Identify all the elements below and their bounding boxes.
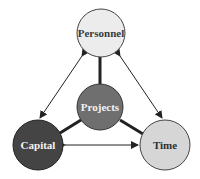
node-projects-label: Projects — [81, 101, 120, 113]
spoke-projects-capital — [60, 120, 81, 133]
triangle-diagram: Personnel Projects Capital Time — [0, 0, 200, 179]
node-time-label: Time — [153, 139, 177, 151]
node-personnel-label: Personnel — [78, 27, 124, 39]
arrow-personnel-time — [120, 56, 162, 118]
spoke-projects-time — [120, 120, 143, 134]
node-time: Time — [140, 120, 190, 170]
node-capital: Capital — [13, 120, 63, 170]
node-projects: Projects — [77, 84, 123, 130]
node-capital-label: Capital — [21, 139, 56, 151]
arrow-personnel-capital — [40, 56, 82, 118]
node-personnel: Personnel — [77, 9, 125, 57]
